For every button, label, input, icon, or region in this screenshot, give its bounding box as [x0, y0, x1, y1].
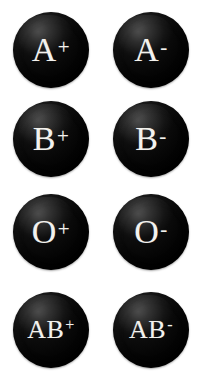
blood-group-letters: O — [134, 213, 159, 250]
badge-a-positive-label: A+ — [32, 33, 70, 67]
badge-a-negative[interactable]: A- — [113, 12, 189, 88]
badge-ab-positive-label: AB+ — [27, 317, 75, 343]
blood-group-letters: B — [33, 120, 56, 157]
badge-a-positive[interactable]: A+ — [13, 12, 89, 88]
badge-b-negative[interactable]: B- — [113, 101, 189, 177]
blood-group-letters: AB — [129, 315, 166, 344]
blood-group-letters: A — [134, 31, 159, 68]
badge-o-positive[interactable]: O+ — [13, 194, 89, 270]
rh-factor-sign: - — [167, 316, 173, 333]
blood-group-letters: AB — [27, 315, 64, 344]
badge-a-negative-label: A- — [134, 33, 168, 67]
rh-factor-sign: - — [160, 217, 168, 241]
badge-ab-negative[interactable]: AB- — [113, 292, 189, 368]
blood-group-letters: B — [135, 120, 158, 157]
rh-factor-sign: - — [159, 124, 167, 148]
rh-factor-sign: + — [65, 316, 75, 333]
badge-ab-negative-label: AB- — [129, 317, 173, 343]
badge-o-positive-label: O+ — [32, 215, 70, 249]
rh-factor-sign: + — [58, 217, 70, 241]
rh-factor-sign: + — [57, 124, 69, 148]
rh-factor-sign: - — [160, 35, 168, 59]
blood-type-badge-grid: A+ A- B+ B- O+ O- AB+ AB- — [0, 0, 204, 385]
blood-group-letters: A — [32, 31, 57, 68]
badge-b-positive[interactable]: B+ — [13, 101, 89, 177]
badge-b-positive-label: B+ — [33, 122, 70, 156]
rh-factor-sign: + — [58, 35, 70, 59]
badge-o-negative[interactable]: O- — [113, 194, 189, 270]
blood-group-letters: O — [32, 213, 57, 250]
badge-ab-positive[interactable]: AB+ — [13, 292, 89, 368]
badge-o-negative-label: O- — [134, 215, 168, 249]
badge-b-negative-label: B- — [135, 122, 167, 156]
